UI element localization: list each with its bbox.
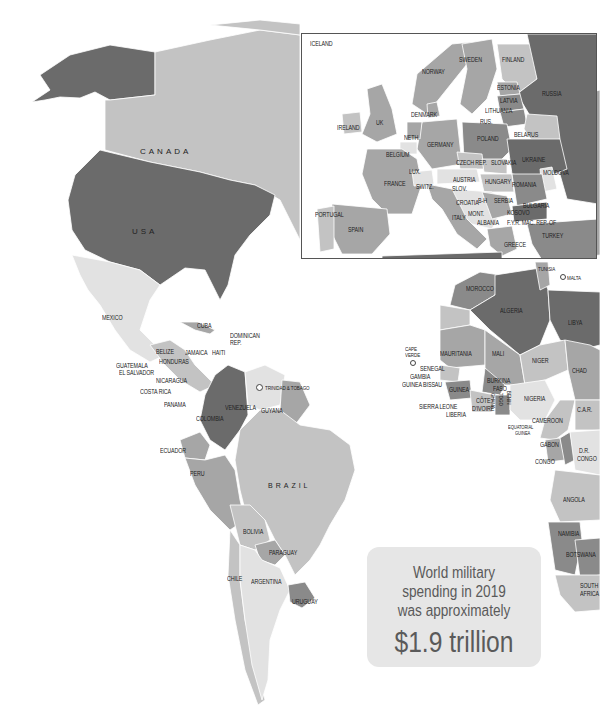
- callout-amount: $1.9 trillion: [383, 624, 526, 660]
- label-jamaica: JAMAICA: [185, 349, 208, 356]
- label-togo: TOGO: [497, 393, 504, 406]
- label-haiti: HAITI: [212, 349, 225, 356]
- label-uruguay: URUGUAY: [292, 598, 318, 605]
- label-hungary: HUNGARY: [485, 178, 511, 185]
- cape-verde-marker: [410, 360, 416, 366]
- label-rus: RUS.: [480, 118, 492, 125]
- label-czech-rep: CZECH REP.: [456, 159, 487, 166]
- label-norway: NORWAY: [422, 68, 445, 75]
- label-ukraine: UKRAINE: [522, 156, 545, 163]
- label-chad: CHAD: [572, 367, 587, 374]
- label-paraguay: PARAGUAY: [269, 549, 297, 556]
- label-botswana: BOTSWANA: [566, 551, 596, 558]
- label-uk: UK: [376, 119, 383, 126]
- botswana-region: [575, 538, 600, 578]
- label-austria: AUSTRIA: [453, 176, 476, 183]
- label-morocco: MOROCCO: [466, 285, 494, 292]
- label-mont: MONT.: [468, 210, 484, 217]
- label-lithuania: LITHUANIA: [485, 107, 512, 114]
- label-libya: LIBYA: [568, 319, 582, 326]
- label-cuba: CUBA: [197, 322, 211, 329]
- label-france: FRANCE: [384, 180, 405, 187]
- label-nigeria: NIGERIA: [524, 395, 545, 402]
- label-canada: CANADA: [140, 148, 191, 155]
- callout-line-2: spending in 2019: [380, 582, 528, 601]
- callout-line-3: was approximately: [380, 601, 528, 620]
- label-bulgaria: BULGARIA: [523, 202, 549, 209]
- label-nicaragua: NICARAGUA: [156, 377, 187, 384]
- label-tunisia: TUNISIA: [538, 266, 555, 273]
- label-mali: MALI: [492, 350, 504, 357]
- label-mexico: MEXICO: [102, 314, 123, 321]
- label-finland: FINLAND: [502, 56, 524, 63]
- label-niger: NIGER: [532, 357, 548, 364]
- label-costa-rica: COSTA RICA: [140, 388, 171, 395]
- label-germany: GERMANY: [427, 141, 453, 148]
- label-el-salvador: EL SALVADOR: [119, 369, 154, 376]
- label-dominican-rep-2: REP.: [230, 339, 241, 346]
- label-benin: BENIN: [505, 391, 512, 404]
- uk-region: [362, 84, 397, 142]
- callout-line-1: World military: [380, 563, 528, 582]
- military-spending-callout: World military spending in 2019 was appr…: [367, 547, 541, 667]
- label-ecuador: ECUADOR: [160, 447, 186, 454]
- label-south-africa-1: SOUTH: [580, 582, 598, 589]
- label-drc-1: D.R.: [579, 447, 589, 454]
- label-peru: PERU: [190, 470, 204, 477]
- label-liberia: LIBERIA: [446, 411, 466, 418]
- mauritania-region: [440, 325, 485, 368]
- label-namibia: NAMIBIA: [558, 530, 579, 537]
- label-italy: ITALY: [452, 214, 466, 221]
- label-gambia: GAMBIA: [410, 373, 430, 380]
- label-ghana: GHANA: [489, 393, 496, 409]
- label-senegal: SENEGAL: [420, 365, 445, 372]
- label-fyr-mac: F.Y.R. MAC. REP. OF: [507, 219, 556, 226]
- label-colombia: COLOMBIA: [196, 415, 223, 422]
- label-russia: RUSSIA: [542, 90, 561, 97]
- label-angola: ANGOLA: [563, 496, 585, 503]
- label-cape-verde-2: VERDE: [405, 352, 420, 359]
- label-croatia: CROATIA: [456, 199, 479, 206]
- label-slov: SLOV.: [452, 185, 467, 192]
- label-bh: B-H: [478, 197, 487, 204]
- malta-marker: [560, 274, 566, 280]
- label-serbia: SERBIA: [494, 197, 513, 204]
- label-honduras: HONDURAS: [159, 358, 189, 365]
- label-brazil: BRAZIL: [268, 482, 311, 489]
- label-cameroon: CAMEROON: [532, 417, 563, 424]
- label-guyana: GUYANA: [261, 407, 283, 414]
- label-belarus: BELARUS: [514, 131, 538, 138]
- label-bolivia: BOLIVIA: [243, 528, 263, 535]
- alaska-region: [32, 45, 155, 102]
- label-chile: CHILE: [227, 575, 242, 582]
- label-mauritania: MAURITANIA: [440, 350, 472, 357]
- car-region: [575, 400, 600, 430]
- label-guatemala: GUATEMALA: [116, 362, 148, 369]
- label-sweden: SWEDEN: [459, 56, 482, 63]
- label-iceland: ICELAND: [310, 40, 333, 47]
- label-poland: POLAND: [477, 135, 498, 142]
- label-kosovo: KOSOVO: [507, 209, 530, 216]
- label-burkina-1: BURKINA: [487, 377, 510, 384]
- label-algeria: ALGERIA: [500, 307, 523, 314]
- label-lux: LUX.: [409, 168, 421, 175]
- label-switz: SWITZ.: [416, 183, 434, 190]
- europe-inset-map: ICELAND NORWAY SWEDEN FINLAND ESTONIA RU…: [301, 33, 597, 259]
- label-drc-2: CONGO: [577, 455, 597, 462]
- label-belize: BELIZE: [156, 348, 174, 355]
- label-malta: MALTA: [567, 275, 581, 282]
- label-slovakia: SLOVAKIA: [491, 159, 516, 166]
- label-albania: ALBANIA: [477, 219, 499, 226]
- label-guinea-bissau: GUINEA BISSAU: [402, 381, 442, 388]
- label-argentina: ARGENTINA: [251, 578, 281, 585]
- north-africa-strip: [382, 252, 502, 259]
- label-south-africa-2: AFRICA: [580, 590, 599, 597]
- label-car: C.A.R.: [577, 406, 592, 413]
- label-estonia: ESTONIA: [497, 84, 520, 91]
- label-ireland: IRELAND: [337, 124, 360, 131]
- label-spain: SPAIN: [348, 226, 363, 233]
- label-denmark: DENMARK: [411, 111, 437, 118]
- label-dominican-rep-1: DOMINICAN: [230, 332, 260, 339]
- label-trinidad-tobago: TRINIDAD & TOBAGO: [265, 385, 310, 392]
- label-greece: GREECE: [504, 241, 526, 248]
